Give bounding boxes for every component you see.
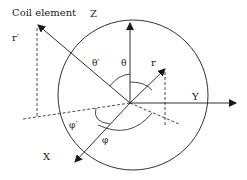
coordinate-diagram: Coil element Z Y X r r′ θ θ′ φ φ′ (0, 0, 247, 180)
theta-arc (130, 82, 152, 90)
x-axis (75, 103, 130, 162)
r-prime-projection-ground (23, 103, 130, 119)
theta-prime-arc (110, 74, 130, 86)
phi-arc (98, 113, 152, 130)
y-axis-label: Y (191, 91, 199, 102)
theta-prime-label: θ′ (92, 58, 99, 68)
sphere-outline (58, 20, 208, 170)
theta-label: θ (121, 58, 126, 68)
z-axis-label: Z (90, 8, 97, 19)
r-projection-ground (130, 103, 179, 124)
coil-element-label: Coil element (12, 7, 76, 18)
phi-label: φ (102, 135, 108, 145)
x-axis-label: X (43, 151, 51, 162)
phi-prime-arc (95, 108, 110, 124)
r-label: r (151, 57, 156, 68)
r-prime-vector (38, 25, 130, 103)
r-prime-label: r′ (12, 32, 20, 43)
phi-prime-label: φ′ (69, 120, 77, 130)
